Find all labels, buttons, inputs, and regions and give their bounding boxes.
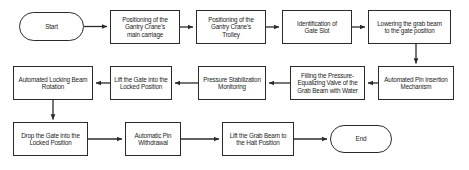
node-automated-locking-beam-rotation-label: Automated Locking Beam Rotation xyxy=(18,76,89,91)
node-positioning-trolley[interactable]: Positioning of the Gantry Crane's Trolle… xyxy=(196,10,266,44)
node-start-label: Start xyxy=(44,23,59,31)
node-pressure-stabilization-monitoring[interactable]: Pressure Stabilization Monitoring xyxy=(198,66,266,100)
node-filling-pressure-equalizing-valve-label: Filling the Pressure- Equalizing Valve o… xyxy=(296,72,358,94)
node-drop-gate-locked-position[interactable]: Drop the Gate into the Locked Position xyxy=(13,122,88,156)
node-automated-pin-insertion-mechanism[interactable]: Automated Pin insertion Mechanism xyxy=(378,66,454,100)
node-positioning-main-carriage[interactable]: Positioning of the Gantry Crane's main c… xyxy=(110,10,180,44)
node-filling-pressure-equalizing-valve[interactable]: Filling the Pressure- Equalizing Valve o… xyxy=(290,66,365,100)
node-lowering-grab-beam[interactable]: Lowering the grab beam to the gate posit… xyxy=(368,10,451,44)
node-lowering-grab-beam-label: Lowering the grab beam to the gate posit… xyxy=(376,20,443,35)
node-lift-gate-locked-position-label: Lift the Gate into the Locked Position xyxy=(113,76,168,91)
node-pressure-stabilization-monitoring-label: Pressure Stabilization Monitoring xyxy=(202,76,262,91)
node-end[interactable]: End xyxy=(330,125,392,153)
flowchart-canvas: Start Positioning of the Gantry Crane's … xyxy=(0,0,469,170)
node-lift-grab-beam-halt-position[interactable]: Lift the Grab Beam to the Halt Position xyxy=(222,122,294,156)
node-lift-grab-beam-halt-position-label: Lift the Grab Beam to the Halt Position xyxy=(229,132,288,147)
node-identification-gate-slot[interactable]: Identification of Gate Slot xyxy=(282,10,352,44)
node-positioning-main-carriage-label: Positioning of the Gantry Crane's main c… xyxy=(121,16,169,38)
node-positioning-trolley-label: Positioning of the Gantry Crane's Trolle… xyxy=(207,16,255,38)
node-identification-gate-slot-label: Identification of Gate Slot xyxy=(296,20,338,35)
node-automated-locking-beam-rotation[interactable]: Automated Locking Beam Rotation xyxy=(13,66,93,100)
node-lift-gate-locked-position[interactable]: Lift the Gate into the Locked Position xyxy=(110,66,172,100)
node-start[interactable]: Start xyxy=(19,12,84,41)
node-automatic-pin-withdrawal-label: Automatic Pin Withdrawal xyxy=(134,132,173,147)
node-end-label: End xyxy=(355,135,368,143)
node-drop-gate-locked-position-label: Drop the Gate into the Locked Position xyxy=(20,132,81,147)
node-automated-pin-insertion-mechanism-label: Automated Pin insertion Mechanism xyxy=(383,76,448,91)
node-automatic-pin-withdrawal[interactable]: Automatic Pin Withdrawal xyxy=(125,122,181,156)
